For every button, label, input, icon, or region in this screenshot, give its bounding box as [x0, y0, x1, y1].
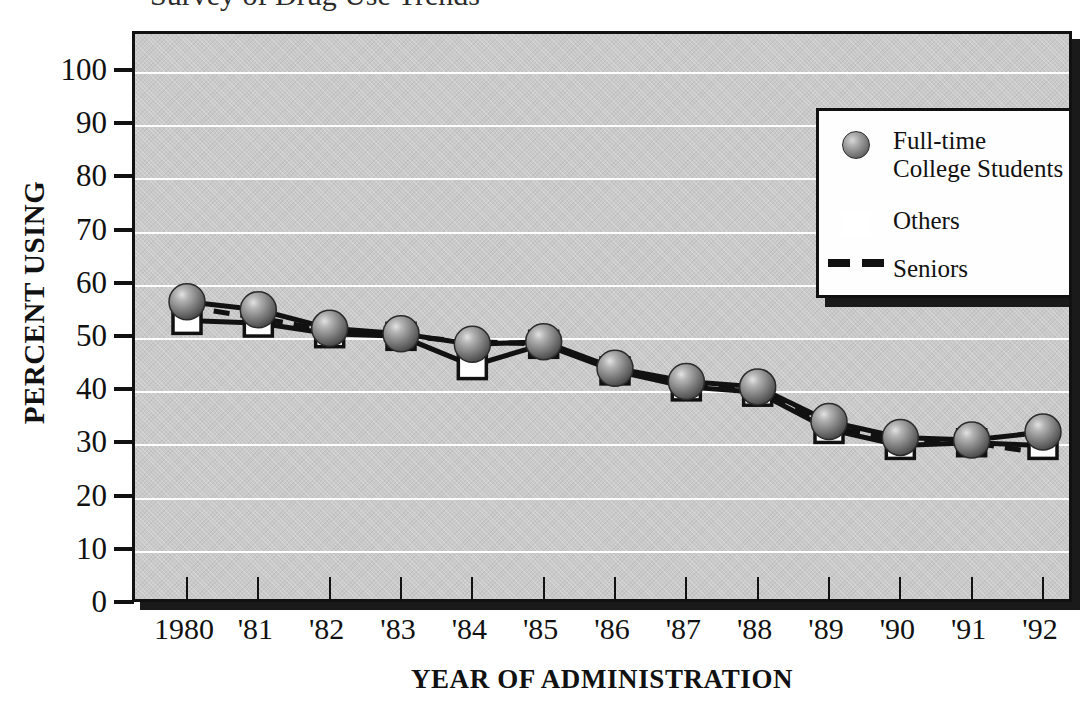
- y-tick-mark-90: [114, 121, 134, 125]
- college-students-marker-91: [954, 422, 990, 458]
- y-tick-label-20: 20: [0, 480, 107, 511]
- college-students-marker-87: [668, 364, 704, 400]
- college-students-marker-1980: [169, 284, 205, 320]
- x-axis-title: YEAR OF ADMINISTRATION: [132, 664, 1072, 695]
- legend-label-others: Others: [893, 207, 960, 235]
- y-tick-label-0: 0: [0, 586, 107, 617]
- legend-marker-open-square-icon: [819, 207, 893, 237]
- legend-label-full-time-college-students: Full-time College Students: [893, 127, 1063, 183]
- y-tick-mark-100: [114, 68, 134, 72]
- college-students-marker-85: [526, 324, 562, 360]
- chart-figure: PERCENT USING 0102030405060708090100: [0, 0, 1083, 716]
- y-tick-label-90: 90: [0, 107, 107, 138]
- legend-item-full-time-college-students[interactable]: Full-time College Students: [819, 127, 1072, 183]
- y-tick-mark-60: [114, 281, 134, 285]
- y-tick-mark-70: [114, 228, 134, 232]
- college-students-marker-82: [312, 310, 348, 346]
- chart-legend: Full-time College Students Others Senior…: [816, 108, 1072, 298]
- college-students-marker-89: [811, 403, 847, 439]
- x-tick-label-92: '92: [980, 614, 1083, 644]
- legend-marker-dashed-line-icon: [819, 255, 893, 267]
- series-college: [169, 284, 1061, 458]
- y-tick-label-70: 70: [0, 214, 107, 245]
- y-tick-label-40: 40: [0, 373, 107, 404]
- college-students-marker-84: [454, 326, 490, 362]
- y-tick-mark-50: [114, 334, 134, 338]
- y-tick-label-50: 50: [0, 320, 107, 351]
- college-students-marker-90: [882, 419, 918, 455]
- college-students-marker-92: [1025, 414, 1061, 450]
- y-tick-mark-20: [114, 494, 134, 498]
- y-tick-label-10: 10: [0, 533, 107, 564]
- y-tick-label-30: 30: [0, 426, 107, 457]
- y-tick-mark-80: [114, 174, 134, 178]
- legend-label-seniors: Seniors: [893, 255, 968, 283]
- college-students-marker-88: [740, 369, 776, 405]
- y-tick-mark-30: [114, 440, 134, 444]
- y-tick-label-60: 60: [0, 267, 107, 298]
- y-tick-mark-40: [114, 387, 134, 391]
- legend-item-others[interactable]: Others: [819, 207, 1072, 237]
- plot-area: Full-time College Students Others Senior…: [132, 31, 1072, 602]
- y-tick-mark-0: [114, 600, 134, 604]
- y-tick-label-80: 80: [0, 160, 107, 191]
- y-tick-mark-10: [114, 547, 134, 551]
- y-tick-label-100: 100: [0, 54, 107, 85]
- legend-marker-sphere-icon: [819, 127, 893, 159]
- college-students-marker-81: [240, 292, 276, 328]
- college-students-marker-86: [597, 350, 633, 386]
- college-students-marker-83: [383, 316, 419, 352]
- legend-item-seniors[interactable]: Seniors: [819, 255, 1072, 283]
